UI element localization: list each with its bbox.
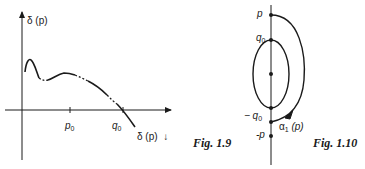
label-q0-sub: 0	[262, 37, 266, 44]
point-minus-p	[269, 134, 273, 138]
fig-1-9-caption: Fig. 1.9	[193, 136, 231, 151]
curve-dashed-segment	[39, 78, 48, 80]
fig-1-10-caption: Fig. 1.10	[313, 136, 357, 151]
y-axis-label-text: δ (p)	[27, 15, 48, 26]
label-minus-q0: − q0	[244, 111, 262, 122]
point-p	[269, 13, 273, 17]
point-alpha1	[269, 120, 273, 124]
down-arrow-icon: ↓	[163, 131, 168, 142]
y-axis-label: δ (p)	[27, 16, 48, 26]
figures-canvas	[0, 0, 365, 169]
p0-label: p0	[65, 121, 74, 132]
outer-trajectory	[271, 15, 304, 122]
fig-1-10-plot	[253, 5, 304, 165]
label-alpha1-suffix: (p)	[289, 121, 304, 132]
point-center	[269, 72, 273, 76]
label-minus-p: -p	[256, 130, 265, 140]
label-alpha1: α1 (p)	[279, 122, 304, 133]
curve-dashed-segment	[75, 75, 88, 81]
curve-segment	[25, 60, 39, 79]
curve-label-text: δ (p)	[137, 131, 158, 142]
label-minus-p-text: -p	[256, 129, 265, 140]
label-q0: q0	[256, 33, 265, 44]
label-minus-q0-main: − q	[244, 110, 258, 121]
curve-segment	[48, 73, 75, 80]
p0-label-sub: 0	[71, 125, 75, 132]
label-p-text: p	[257, 8, 263, 19]
q0-label-sub: 0	[118, 125, 122, 132]
trajectory-arrow-icon	[285, 110, 293, 119]
curve-segment	[88, 81, 107, 95]
point-minus-q0	[269, 106, 273, 110]
label-minus-q0-sub: 0	[258, 115, 262, 122]
curve-label: δ (p) ↓	[137, 132, 168, 142]
q0-label: q0	[112, 121, 121, 132]
label-p: p	[257, 9, 263, 19]
point-q0	[269, 38, 273, 42]
curve-dashed-segment	[107, 95, 117, 104]
